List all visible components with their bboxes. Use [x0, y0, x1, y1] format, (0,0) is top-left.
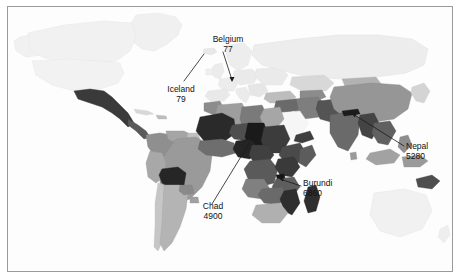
- country-uruguay: [190, 197, 199, 203]
- map-frame: Iceland 79 Belgium 77 Nepal 5280 Burundi…: [7, 6, 453, 272]
- world-map[interactable]: [8, 7, 452, 271]
- country-ireland: [206, 69, 213, 75]
- country-sri-lanka: [350, 152, 357, 160]
- figure-root: Iceland 79 Belgium 77 Nepal 5280 Burundi…: [0, 0, 460, 279]
